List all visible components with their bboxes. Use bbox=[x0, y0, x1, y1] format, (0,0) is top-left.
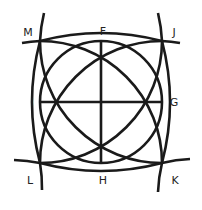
tail-K-vertical bbox=[158, 163, 162, 192]
label-J: J bbox=[172, 27, 175, 38]
label-H: H bbox=[99, 175, 107, 186]
label-K: K bbox=[171, 175, 178, 186]
label-I: I bbox=[30, 97, 33, 108]
tail-L-vertical bbox=[40, 163, 42, 190]
tail-L-horizontal bbox=[14, 160, 40, 163]
label-G: G bbox=[170, 97, 179, 108]
label-M: M bbox=[23, 27, 33, 38]
label-F: F bbox=[100, 26, 106, 37]
tail-K-horizontal bbox=[162, 159, 190, 163]
label-L: L bbox=[27, 175, 33, 186]
